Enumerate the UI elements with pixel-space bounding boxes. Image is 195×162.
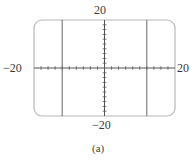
y-max-label: 20 xyxy=(94,4,106,16)
figure-caption: (a) xyxy=(92,142,104,154)
axes xyxy=(34,20,175,116)
x-min-label: −20 xyxy=(3,62,22,74)
y-min-label: −20 xyxy=(92,119,111,131)
plot-svg xyxy=(0,0,195,162)
x-max-label: 20 xyxy=(177,62,189,74)
graphing-calculator-plot: 20 −20 −20 20 (a) xyxy=(0,0,195,162)
